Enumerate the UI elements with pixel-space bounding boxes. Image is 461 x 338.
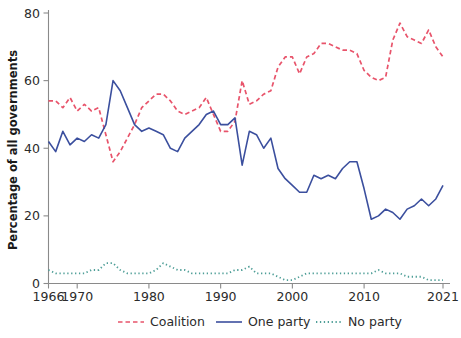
series-line-one-party (49, 81, 444, 220)
x-tick-label: 2021 (427, 289, 459, 304)
legend-label-no-party[interactable]: No party (348, 314, 403, 329)
line-chart: Percentage of all governments 020406080 … (0, 0, 461, 338)
x-tick-label: 1966 (33, 289, 65, 304)
series-line-no-party (49, 263, 444, 280)
x-tick-label: 1990 (205, 289, 237, 304)
legend-label-one-party[interactable]: One party (248, 314, 311, 329)
y-tick-label: 80 (24, 6, 40, 21)
y-axis-ticks: 020406080 (24, 6, 48, 292)
x-tick-label: 2010 (348, 289, 380, 304)
y-tick-label: 40 (24, 141, 40, 156)
x-tick-label: 2000 (276, 289, 308, 304)
series-line-coalition (49, 23, 444, 162)
x-tick-label: 1980 (133, 289, 165, 304)
y-axis-label: Percentage of all governments (6, 50, 20, 250)
data-series-group (49, 23, 444, 280)
y-tick-label: 60 (24, 73, 40, 88)
x-tick-label: 1970 (61, 289, 93, 304)
y-tick-label: 20 (24, 208, 40, 223)
chart-legend[interactable]: CoalitionOne partyNo party (118, 314, 403, 329)
x-axis-ticks: 1966197019801990200020102021 (33, 284, 459, 305)
chart-figure: Percentage of all governments 020406080 … (0, 0, 461, 338)
legend-label-coalition[interactable]: Coalition (150, 314, 205, 329)
